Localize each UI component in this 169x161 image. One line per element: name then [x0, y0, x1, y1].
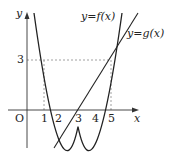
origin-label: O — [15, 113, 24, 124]
x-tick-2: 2 — [55, 113, 62, 124]
curve-f — [34, 13, 122, 151]
x-tick-5: 5 — [108, 113, 115, 124]
curve-g — [54, 13, 138, 148]
curve-g-label: y=g(x) — [127, 28, 164, 39]
graph-canvas — [0, 0, 169, 161]
curve-f-label: y=f(x) — [81, 11, 115, 22]
x-tick-3: 3 — [75, 113, 82, 124]
y-axis-arrow-icon — [25, 12, 30, 19]
y-tick-3: 3 — [17, 54, 24, 65]
x-tick-1: 1 — [41, 113, 48, 124]
y-axis-label: y — [16, 8, 22, 19]
x-tick-4: 4 — [92, 113, 99, 124]
x-axis-label: x — [134, 113, 140, 124]
dashed-guides — [27, 60, 111, 110]
